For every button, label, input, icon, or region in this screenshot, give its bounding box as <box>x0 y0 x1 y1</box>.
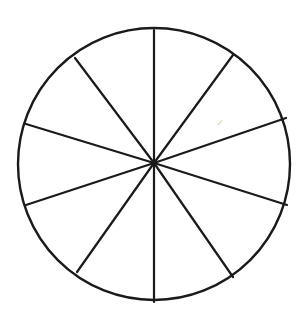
stray-mark <box>218 120 222 125</box>
spoke-line-5 <box>154 163 233 277</box>
spoke-line-8 <box>26 163 154 205</box>
spoke-line-7 <box>77 163 154 272</box>
spoke-line-4 <box>154 163 287 205</box>
spoke-line-3 <box>154 118 286 163</box>
spoke-line-9 <box>26 124 154 163</box>
pie-diagram <box>0 0 308 319</box>
spoke-line-10 <box>75 58 154 163</box>
circle-sectors-graphic <box>0 0 308 319</box>
spoke-line-2 <box>154 55 233 163</box>
